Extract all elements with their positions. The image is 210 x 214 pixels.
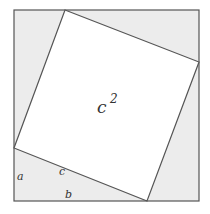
label-b: b (65, 188, 72, 201)
pythagoras-diagram: c 2 a c b (0, 0, 210, 214)
c-squared-exponent: 2 (109, 92, 118, 106)
c-squared-label: c (97, 97, 107, 117)
label-c: c (59, 165, 65, 178)
label-a: a (17, 170, 24, 183)
